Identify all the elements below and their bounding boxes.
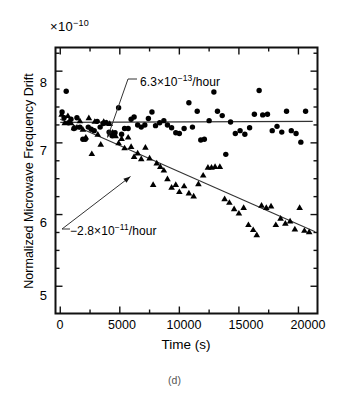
annotation-lower-suffix: /hour	[129, 224, 157, 238]
annotation-upper-suffix: /hour	[192, 75, 220, 89]
annotation-lower: −2.8×10−11/hour	[70, 222, 157, 238]
plot-area	[0, 0, 349, 405]
annotation-upper: 6.3×10−13/hour	[140, 73, 220, 89]
figure-panel: ×10−10 Normalized Microwave Frequency Dr…	[0, 0, 349, 405]
annotation-leaders	[62, 79, 137, 229]
annotation-upper-base: 6.3×10	[140, 75, 178, 89]
figure-caption: (d)	[0, 374, 349, 386]
annotation-lower-base: −2.8×10	[70, 224, 115, 238]
annotation-upper-exponent: −13	[178, 73, 193, 83]
annotation-lower-exponent: −11	[115, 222, 129, 232]
